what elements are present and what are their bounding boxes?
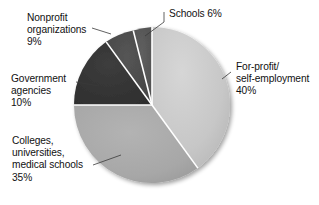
- pie-label-colleges-universities-medical-schools: Colleges, universities, medical schools …: [12, 135, 83, 184]
- pie-label-schools: Schools 6%: [169, 8, 222, 20]
- leader-line-nonprofit: [92, 28, 111, 34]
- pie-label-for-profit-self-employment: For-profit/ self-employment 40%: [236, 61, 309, 98]
- pie-label-government-agencies: Government agencies 10%: [11, 73, 66, 110]
- pie-label-nonprofit-organizations: Nonprofit organizations 9%: [27, 12, 86, 49]
- pie-chart-figure: Nonprofit organizations 9% Government ag…: [0, 0, 319, 205]
